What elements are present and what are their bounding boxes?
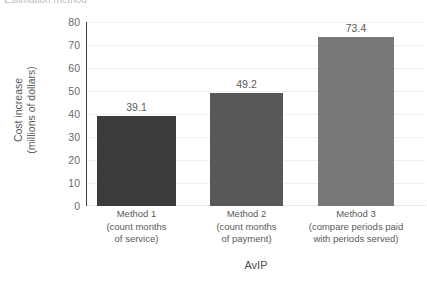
x-category-name-3: Method 3	[281, 208, 427, 221]
chart-title: Estimation method	[4, 0, 304, 6]
x-category-sub2-3: with periods served)	[281, 233, 427, 246]
y-axis-title-line2: (millions of dollars)	[25, 66, 38, 154]
y-axis-tick-50: 50	[46, 86, 80, 97]
bar-1[interactable]	[97, 116, 176, 206]
x-category-sub1-3: (compare periods paid	[281, 221, 427, 234]
y-axis-tick-20: 20	[46, 155, 80, 166]
y-axis-tick-70: 70	[46, 40, 80, 51]
y-axis-line	[86, 22, 87, 206]
bar-value-label-1: 39.1	[97, 101, 176, 113]
y-axis-tick-labels: 80706050403020100	[44, 22, 80, 206]
bar-value-label-3: 73.4	[318, 22, 394, 34]
y-axis-title-line1: Cost increase	[12, 66, 25, 154]
bar-3[interactable]	[318, 37, 394, 206]
bar-chart-figure: Estimation method Cost increase (million…	[0, 0, 427, 285]
x-category-label-3: Method 3(compare periods paidwith period…	[281, 208, 427, 246]
y-axis-tick-10: 10	[46, 178, 80, 189]
bar-2[interactable]	[210, 93, 283, 206]
x-axis-category-labels: Method 1(count monthsof service)Method 2…	[86, 208, 426, 252]
y-axis-tick-80: 80	[46, 17, 80, 28]
bar-value-label-2: 49.2	[210, 78, 283, 90]
y-axis-title: Cost increase (millions of dollars)	[8, 14, 42, 206]
y-axis-tick-30: 30	[46, 132, 80, 143]
y-axis-tick-60: 60	[46, 63, 80, 74]
x-axis-title: AvIP	[86, 258, 426, 272]
y-axis-tick-40: 40	[46, 109, 80, 120]
plot-area: 39.149.273.4	[86, 22, 426, 206]
